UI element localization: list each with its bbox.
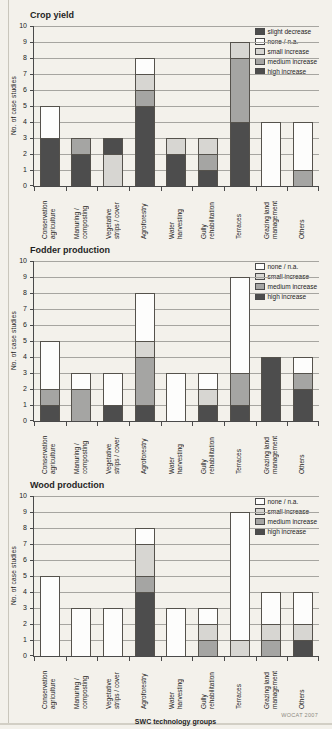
x-category-label-text: Terraces bbox=[235, 661, 243, 709]
x-category-label-text: Terraces bbox=[235, 426, 243, 474]
x-category-label: Conservation agriculture bbox=[33, 191, 65, 239]
y-tick-label: 5 bbox=[23, 337, 27, 345]
stacked-bar bbox=[71, 138, 91, 186]
bar-slot bbox=[129, 496, 161, 656]
y-tick-label: 5 bbox=[23, 572, 27, 580]
x-category-label-text: Vegetative strips / cover bbox=[105, 661, 120, 709]
bar-segment bbox=[261, 624, 281, 640]
x-category-label-text: Manuring / composting bbox=[73, 661, 88, 709]
bar-slot bbox=[287, 261, 319, 421]
bar-segment bbox=[230, 277, 250, 373]
bar-slot bbox=[256, 261, 288, 421]
y-tick-label: 3 bbox=[23, 134, 27, 142]
x-category-label-text: Others bbox=[298, 426, 306, 474]
x-axis-labels: Conservation agricultureManuring / compo… bbox=[33, 422, 318, 474]
bar-segment bbox=[230, 512, 250, 640]
y-tick-label: 6 bbox=[23, 86, 27, 94]
bar-segment bbox=[293, 592, 313, 624]
y-axis-label: No. of case studies bbox=[10, 261, 17, 421]
stacked-bar bbox=[166, 373, 186, 421]
scanned-figure-page: Crop yield No. of case studies slight de… bbox=[0, 0, 332, 729]
bar-slot bbox=[66, 261, 98, 421]
y-tick-label: 5 bbox=[23, 102, 27, 110]
bar-segment bbox=[135, 544, 155, 576]
x-category-label: Terraces bbox=[223, 661, 255, 709]
stacked-bar bbox=[293, 122, 313, 186]
stacked-bar bbox=[261, 122, 281, 186]
x-category-label: Manuring / composting bbox=[65, 426, 97, 474]
bar-segment bbox=[261, 122, 281, 186]
bar-segment bbox=[135, 528, 155, 544]
y-tick-label: 0 bbox=[23, 417, 27, 425]
bar-segment bbox=[198, 170, 218, 186]
x-category-label-text: Agroforestry bbox=[140, 191, 148, 239]
x-category-label-text: Grazing land management bbox=[263, 426, 278, 474]
bar-segment bbox=[230, 640, 250, 656]
x-category-label: Others bbox=[286, 191, 318, 239]
bar-slot bbox=[224, 496, 256, 656]
x-tick-mark bbox=[318, 422, 319, 426]
bar-slot bbox=[161, 261, 193, 421]
stacked-bar bbox=[135, 528, 155, 656]
x-category-label: Gully rehabilitation bbox=[191, 426, 223, 474]
x-category-label: Grazing land management bbox=[255, 426, 287, 474]
chart-title: Fodder production bbox=[30, 245, 332, 256]
x-category-label-text: Vegetative strips / cover bbox=[105, 191, 120, 239]
x-category-label-text: Manuring / composting bbox=[73, 191, 88, 239]
y-tick-label: 6 bbox=[23, 321, 27, 329]
bar-segment bbox=[135, 341, 155, 357]
chart-wood-production: Wood production No. of case studies none… bbox=[0, 480, 332, 709]
bar-segment bbox=[261, 592, 281, 624]
x-category-label-text: Grazing land management bbox=[263, 191, 278, 239]
x-category-label: Grazing land management bbox=[255, 191, 287, 239]
bar-segment bbox=[71, 389, 91, 421]
bar-slot bbox=[256, 26, 288, 186]
y-tick-label: 9 bbox=[23, 508, 27, 516]
x-category-label-text: Gully rehabilitation bbox=[200, 661, 215, 709]
stacked-bar bbox=[198, 138, 218, 186]
bar-slot bbox=[34, 261, 66, 421]
stacked-bar bbox=[261, 357, 281, 421]
stacked-bar bbox=[230, 277, 250, 421]
bar-segment bbox=[230, 58, 250, 122]
bar-segment bbox=[103, 405, 123, 421]
y-tick-label: 1 bbox=[23, 166, 27, 174]
bar-segment bbox=[198, 640, 218, 656]
bar-slot bbox=[256, 496, 288, 656]
chart-crop-yield: Crop yield No. of case studies slight de… bbox=[0, 10, 332, 239]
bar-segment bbox=[40, 405, 60, 421]
bar-slot bbox=[66, 496, 98, 656]
bar-segment bbox=[71, 373, 91, 389]
bar-segment bbox=[198, 624, 218, 640]
x-category-label: Gully rehabilitation bbox=[191, 191, 223, 239]
x-category-label: Gully rehabilitation bbox=[191, 661, 223, 709]
bar-slot bbox=[97, 26, 129, 186]
y-tick-label: 6 bbox=[23, 556, 27, 564]
x-category-label: Water harvesting bbox=[160, 191, 192, 239]
x-category-label-text: Water harvesting bbox=[168, 426, 183, 474]
bar-segment bbox=[71, 154, 91, 186]
bar-segment bbox=[103, 608, 123, 656]
x-category-label: Vegetative strips / cover bbox=[96, 661, 128, 709]
y-tick-label: 8 bbox=[23, 54, 27, 62]
x-category-label-text: Agroforestry bbox=[140, 426, 148, 474]
figure-footer: SWC technology groups WOCAT 2007 bbox=[33, 710, 318, 722]
x-category-label-text: Others bbox=[298, 191, 306, 239]
bar-slot bbox=[66, 26, 98, 186]
bar-slot bbox=[34, 26, 66, 186]
y-tick-label: 10 bbox=[19, 257, 27, 265]
bar-segment bbox=[198, 405, 218, 421]
y-tick-label: 7 bbox=[23, 305, 27, 313]
stacked-bar bbox=[198, 373, 218, 421]
bar-segment bbox=[198, 154, 218, 170]
x-category-label-text: Water harvesting bbox=[168, 191, 183, 239]
y-tick-label: 2 bbox=[23, 620, 27, 628]
stacked-bar bbox=[40, 341, 60, 421]
y-tick-label: 0 bbox=[23, 182, 27, 190]
y-tick-label: 9 bbox=[23, 273, 27, 281]
stacked-bar bbox=[293, 592, 313, 656]
bar-segment bbox=[166, 608, 186, 656]
bar-slot bbox=[97, 496, 129, 656]
bar-slot bbox=[192, 496, 224, 656]
y-tick-label: 3 bbox=[23, 369, 27, 377]
